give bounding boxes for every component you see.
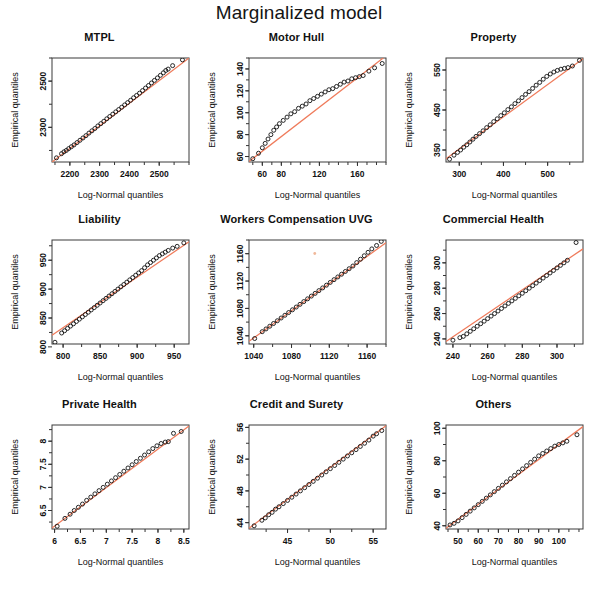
data-point (575, 433, 579, 437)
data-point (335, 84, 339, 88)
qq-panel-credit-and-surety: Credit and Surety45505544485256Log-Norma… (197, 398, 396, 584)
data-point (289, 112, 293, 116)
x-axis-title: Log-Normal quantiles (472, 372, 558, 382)
y-tick-label: 950 (38, 253, 48, 267)
y-axis-title: Empirical quantiles (10, 254, 20, 330)
data-point (565, 439, 569, 443)
data-point (541, 77, 545, 81)
data-point (541, 451, 545, 455)
qq-plot: 10401080112011601040108011201160Log-Norm… (197, 213, 396, 399)
x-tick-label: 7.5 (126, 536, 138, 546)
reference-line (249, 56, 386, 162)
data-point (296, 106, 300, 110)
data-point (574, 241, 578, 245)
data-point (513, 102, 517, 106)
data-point (114, 476, 118, 480)
data-point (521, 467, 525, 471)
data-point (281, 118, 285, 122)
y-tick-label: 60 (432, 488, 442, 498)
x-tick-label: 950 (167, 351, 181, 361)
data-point (171, 64, 175, 68)
y-tick-label: 140 (235, 62, 245, 76)
x-tick-label: 800 (56, 351, 70, 361)
data-point (285, 115, 289, 119)
data-point (101, 485, 105, 489)
data-point (130, 463, 134, 467)
qq-panel-property: Property300400500350450550Log-Normal qua… (394, 31, 593, 217)
x-tick-label: 2500 (150, 169, 169, 179)
data-point (308, 99, 312, 103)
qq-panel-motor-hull: Motor Hull60801201606080100120140Log-Nor… (197, 31, 396, 217)
qq-plot: 800850900950800850900950Log-Normal quant… (0, 213, 199, 399)
x-tick-label: 120 (312, 169, 326, 179)
qq-panel-others: Others5060708090100406080100Log-Normal q… (394, 398, 593, 584)
qq-plot: 5060708090100406080100Log-Normal quantil… (394, 398, 593, 584)
x-tick-label: 260 (481, 351, 495, 361)
data-point (263, 141, 267, 145)
x-axis-title: Log-Normal quantiles (275, 372, 361, 382)
page-title: Marginalized model (0, 2, 598, 24)
data-point (312, 97, 316, 101)
x-tick-label: 7 (104, 536, 109, 546)
data-point (323, 90, 327, 94)
y-tick-label: 300 (432, 255, 442, 269)
plot-frame (446, 240, 583, 344)
y-axis-title: Empirical quantiles (10, 439, 20, 515)
data-point (155, 444, 159, 448)
data-point (366, 250, 370, 254)
y-tick-label: 52 (235, 454, 245, 464)
data-point (138, 456, 142, 460)
data-point (161, 71, 165, 75)
x-tick-label: 1040 (244, 351, 263, 361)
x-tick-label: 8 (156, 536, 161, 546)
y-tick-label: 2300 (38, 118, 48, 137)
y-tick-label: 40 (432, 521, 442, 531)
y-axis-title: Empirical quantiles (404, 439, 414, 515)
x-axis-title: Log-Normal quantiles (472, 190, 558, 200)
data-point (97, 489, 101, 493)
y-tick-label: 100 (432, 421, 442, 435)
x-tick-label: 6 (52, 536, 57, 546)
y-axis-title: Empirical quantiles (10, 72, 20, 148)
data-point (109, 479, 113, 483)
y-tick-label: 8 (38, 439, 48, 444)
data-point (537, 454, 541, 458)
y-tick-label: 1080 (235, 299, 245, 318)
data-point (380, 61, 384, 65)
data-point (331, 87, 335, 91)
data-point (260, 146, 264, 150)
data-point (452, 153, 456, 157)
qq-plot: 66.577.588.56.577.58Log-Normal quantiles… (0, 398, 199, 584)
data-point (531, 86, 535, 90)
data-point (277, 122, 281, 126)
x-tick-label: 1160 (358, 351, 377, 361)
data-point (269, 133, 273, 137)
data-point (105, 482, 109, 486)
x-tick-label: 160 (350, 169, 364, 179)
x-tick-label: 6.5 (75, 536, 87, 546)
data-point (293, 110, 297, 114)
y-axis-title: Empirical quantiles (207, 254, 217, 330)
y-tick-label: 260 (432, 306, 442, 320)
x-tick-label: 90 (534, 536, 544, 546)
x-axis-title: Log-Normal quantiles (78, 372, 164, 382)
x-tick-label: 8.5 (178, 536, 190, 546)
y-axis-title: Empirical quantiles (207, 439, 217, 515)
data-point (502, 111, 506, 115)
data-point (499, 114, 503, 118)
data-point (126, 466, 130, 470)
y-tick-label: 6.5 (38, 504, 48, 516)
x-tick-label: 1120 (320, 351, 339, 361)
qq-plot: 220023002400250023002500Log-Normal quant… (0, 31, 199, 217)
data-point (134, 460, 138, 464)
data-point (300, 104, 304, 108)
data-point (448, 157, 452, 161)
qq-plot: 45505544485256Log-Normal quantilesEmpiri… (197, 398, 396, 584)
x-tick-label: 55 (368, 536, 378, 546)
x-tick-label: 2200 (60, 169, 79, 179)
data-point (529, 460, 533, 464)
data-point (362, 254, 366, 258)
x-tick-label: 100 (552, 536, 566, 546)
data-point (338, 82, 342, 86)
y-tick-label: 1120 (235, 272, 245, 291)
